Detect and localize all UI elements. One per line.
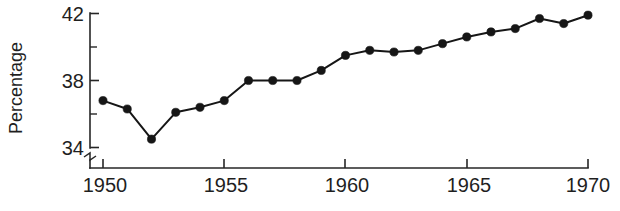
data-point — [293, 76, 301, 84]
data-point — [220, 97, 228, 105]
y-axis-title: Percentage — [6, 42, 26, 134]
x-tick-label-1965: 1965 — [447, 174, 492, 196]
data-point — [99, 97, 107, 105]
data-point — [584, 11, 592, 19]
data-point — [560, 19, 568, 27]
data-point — [438, 40, 446, 48]
data-point — [317, 66, 325, 74]
series-group — [99, 11, 592, 143]
data-point — [123, 105, 131, 113]
data-point — [366, 46, 374, 54]
y-tick-label-42: 42 — [62, 3, 84, 25]
y-tick-label-38: 38 — [62, 70, 84, 92]
y-axis-group: 42 38 34 — [62, 3, 99, 168]
data-point — [414, 46, 422, 54]
x-tick-label-1955: 1955 — [204, 174, 249, 196]
x-tick-label-1970: 1970 — [566, 174, 611, 196]
data-point — [172, 108, 180, 116]
chart-figure: 42 38 34 1950 1955 1960 1965 1970 Percen… — [0, 0, 620, 211]
data-point — [244, 76, 252, 84]
data-point — [487, 28, 495, 36]
data-point — [269, 76, 277, 84]
data-point — [196, 103, 204, 111]
line-chart-svg: 42 38 34 1950 1955 1960 1965 1970 Percen… — [0, 0, 620, 211]
x-tick-label-1950: 1950 — [83, 174, 128, 196]
series-markers-percentage — [99, 11, 592, 143]
y-tick-label-34: 34 — [62, 137, 84, 159]
data-point — [535, 14, 543, 22]
x-axis-group: 1950 1955 1960 1965 1970 — [83, 159, 611, 196]
data-point — [463, 33, 471, 41]
data-point — [147, 135, 155, 143]
series-line-percentage — [103, 15, 588, 139]
data-point — [390, 48, 398, 56]
data-point — [341, 51, 349, 59]
x-tick-label-1960: 1960 — [325, 174, 370, 196]
data-point — [511, 24, 519, 32]
axis-break-icon — [84, 153, 96, 160]
